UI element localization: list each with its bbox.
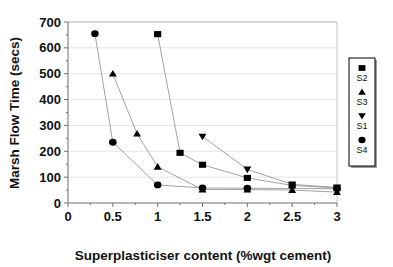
x-axis-title: Superplasticiser content (%wgt cement) <box>75 248 332 263</box>
data-point-S2 <box>176 150 183 156</box>
data-point-S4 <box>199 185 207 192</box>
legend: S2S3S1S4 <box>349 58 377 168</box>
legend-marker-S4 <box>358 137 365 143</box>
y-tick-label: 500 <box>39 66 61 81</box>
data-point-S4 <box>244 185 252 192</box>
x-axis-tick-labels: 00.511.522.53 <box>64 209 340 224</box>
y-tick-label: 700 <box>39 15 61 30</box>
x-tick-label: 3 <box>333 209 340 224</box>
data-point-S4 <box>333 185 341 192</box>
y-tick-label: 600 <box>39 40 61 55</box>
x-tick-label: 0 <box>64 209 71 224</box>
x-tick-label: 2 <box>244 209 251 224</box>
legend-label-S2: S2 <box>356 73 367 83</box>
y-tick-label: 400 <box>39 92 61 107</box>
data-point-S4 <box>91 30 99 37</box>
x-tick-label: 2.5 <box>283 209 301 224</box>
data-point-S2 <box>244 175 251 181</box>
marsh-flow-time-chart: 00.511.522.53 0100200300400500600700 S2S… <box>0 0 393 267</box>
legend-label-S1: S1 <box>356 121 367 131</box>
legend-label-S3: S3 <box>356 97 367 107</box>
x-tick-label: 1 <box>154 209 161 224</box>
y-tick-label: 0 <box>54 196 61 211</box>
data-point-S4 <box>109 139 117 146</box>
y-tick-label: 300 <box>39 118 61 133</box>
data-point-S2 <box>199 162 206 168</box>
data-point-S2 <box>154 31 161 37</box>
y-axis-title: Marsh Flow Time (secs) <box>7 37 22 189</box>
legend-marker-S2 <box>359 65 366 71</box>
x-tick-label: 0.5 <box>104 209 122 224</box>
y-tick-label: 200 <box>39 144 61 159</box>
x-tick-label: 1.5 <box>193 209 211 224</box>
y-tick-label: 100 <box>39 170 61 185</box>
legend-label-S4: S4 <box>356 145 367 155</box>
data-point-S4 <box>154 181 162 188</box>
chart-figure: 00.511.522.53 0100200300400500600700 S2S… <box>0 0 393 267</box>
